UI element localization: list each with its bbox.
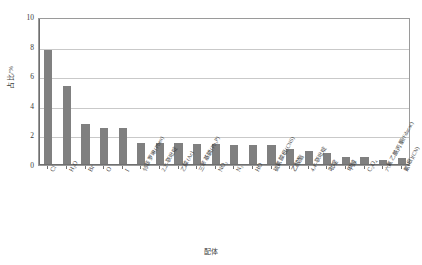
x-axis-title: 配体 (0, 246, 422, 256)
x-category-label: HO (254, 162, 264, 173)
x-category-label: 乙酸(Ac) (180, 150, 195, 172)
x-category-label: I (124, 168, 131, 173)
x-category-label: 甲醇 (347, 159, 358, 173)
x-category-label: C₂O₄ (366, 158, 378, 173)
x-category-label: 乙酸酯 (291, 154, 305, 173)
x-category-label: O (105, 166, 113, 173)
x-category-label: 2,2'-联吡啶 (161, 145, 179, 172)
x-category-label: NO₃ (217, 160, 228, 173)
x-category-label: Cl (49, 165, 57, 173)
x-category-label: N₃ (235, 164, 244, 173)
x-category-label: 氰(根)(CN) (403, 146, 421, 173)
x-category-label: Br (87, 164, 96, 173)
x-axis-category-labels: ClH₂OBrOI邻菲罗啉(Phen)2,2'-联吡啶乙酸(Ac)三苯基膦(Ph… (0, 0, 422, 265)
x-category-label: 吡啶 (328, 159, 339, 173)
bar-chart: 占比/% 0246810 ClH₂OBrOI邻菲罗啉(Phen)2,2'-联吡啶… (0, 0, 422, 265)
x-category-label: H₂O (68, 160, 79, 173)
x-category-label: 4,4'-联吡啶 (310, 145, 328, 172)
